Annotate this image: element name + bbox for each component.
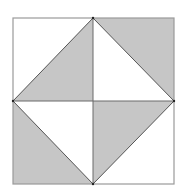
left-vertex bbox=[12, 100, 14, 102]
bottom-vertex bbox=[92, 183, 94, 185]
geometric-diagram bbox=[0, 0, 183, 192]
right-vertex bbox=[173, 100, 175, 102]
top-vertex bbox=[92, 17, 94, 19]
